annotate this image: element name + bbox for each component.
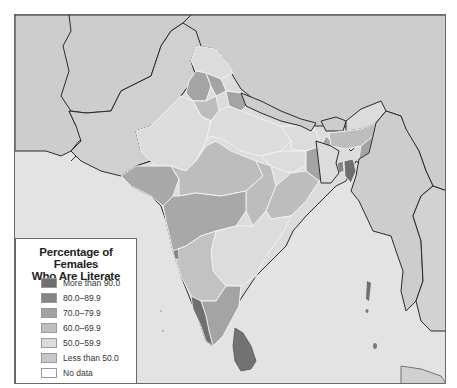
legend-swatch (41, 368, 57, 378)
legend-item-60-69: 60.0–69.9 (41, 322, 101, 334)
legend-label: 80.0–89.9 (63, 293, 101, 303)
legend-item-no-data: No data (41, 367, 93, 379)
legend-label: 70.0–79.9 (63, 308, 101, 318)
lakshadweep-2 (162, 330, 164, 332)
legend-title-line-1: Percentage of Females (16, 246, 136, 270)
legend-item-50-59: 50.0–59.9 (41, 337, 101, 349)
legend-swatch (41, 353, 57, 363)
legend-item-70-79: 70.0–79.9 (41, 307, 101, 319)
legend-item-80-89: 80.0–89.9 (41, 292, 101, 304)
nicobar-islands (373, 343, 377, 349)
legend-label: 60.0–69.9 (63, 323, 101, 333)
legend-swatch (41, 308, 57, 318)
legend-swatch (41, 278, 57, 288)
legend-label: No data (63, 368, 93, 378)
nicobar-islands-2 (366, 309, 369, 313)
legend-swatch (41, 293, 57, 303)
map-frame: Percentage of Females Who Are Literate M… (14, 14, 446, 384)
legend-swatch (41, 338, 57, 348)
legend-item-less-than-50: Less than 50.0 (41, 352, 119, 364)
legend-label: More than 90.0 (63, 278, 120, 288)
legend-label: 50.0–59.9 (63, 338, 101, 348)
legend: Percentage of Females Who Are Literate M… (15, 238, 137, 384)
lakshadweep (160, 310, 162, 312)
legend-item-more-than-90: More than 90.0 (41, 277, 120, 289)
legend-label: Less than 50.0 (63, 353, 119, 363)
legend-swatch (41, 323, 57, 333)
